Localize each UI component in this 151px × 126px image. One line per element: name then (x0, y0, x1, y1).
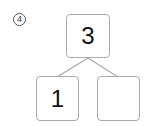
whole-box: 3 (66, 14, 110, 58)
whole-value: 3 (81, 22, 94, 50)
part-box-left: 1 (36, 76, 79, 121)
part-box-right[interactable] (97, 76, 140, 121)
part-value-left: 1 (51, 85, 64, 113)
